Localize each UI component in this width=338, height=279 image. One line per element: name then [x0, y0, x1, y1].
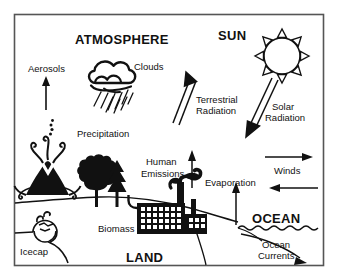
label-terrestrial-radiation-line2: Radiation [196, 105, 236, 116]
label-aerosols: Aerosols [28, 63, 65, 74]
label-human-emissions-line1: Human [146, 156, 177, 167]
label-terrestrial-radiation-line1: Terrestrial [196, 94, 238, 105]
heading-land: LAND [126, 250, 163, 265]
label-biomass: Biomass [98, 223, 135, 234]
label-winds: Winds [274, 165, 301, 176]
label-human-emissions-line2: Emissions [141, 168, 185, 179]
label-ocean-currents-line2: Currents [258, 250, 295, 261]
heading-sun: SUN [218, 28, 246, 43]
label-icecap: Icecap [20, 246, 48, 257]
label-ocean-currents-line1: Ocean [262, 239, 290, 250]
heading-atmosphere: ATMOSPHERE [75, 32, 169, 47]
label-solar-radiation-line1: Solar [272, 101, 294, 112]
label-solar-radiation-line2: Radiation [265, 112, 305, 123]
label-precipitation: Precipitation [77, 128, 129, 139]
diagram-canvas: ATMOSPHERE SUN OCEAN LAND [0, 0, 338, 279]
climate-system-diagram: ATMOSPHERE SUN OCEAN LAND [0, 0, 338, 279]
label-evaporation: Evaporation [205, 177, 256, 188]
heading-ocean: OCEAN [252, 211, 300, 226]
label-clouds: Clouds [134, 61, 164, 72]
